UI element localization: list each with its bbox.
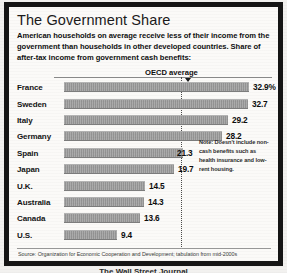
bar-value-label: 32.9% [253, 82, 276, 92]
clipping-page: The Government Share American households… [0, 0, 287, 273]
bar-value-label: 13.6 [144, 213, 160, 223]
bar-canada [64, 213, 140, 223]
bar-france [64, 82, 249, 92]
bar-row: U.K. 14.5 [17, 177, 279, 193]
bar-category-label: U.S. [17, 230, 32, 239]
bar-row: Italy 29.2 [17, 112, 279, 128]
bar-row: U.S. 9.4 [17, 227, 279, 243]
plot-top-rule [54, 77, 272, 78]
bar-category-label: France [17, 83, 43, 92]
figure-caption: The Wall Street Journal [0, 267, 287, 273]
bar-value-label: 19.7 [178, 164, 194, 174]
bar-value-label: 29.2 [232, 115, 248, 125]
bar-uk [64, 181, 145, 191]
bar-sweden [64, 99, 248, 109]
bar-value-label: 14.5 [149, 181, 165, 191]
chart-subtitle: American households on average receive l… [17, 31, 275, 63]
bar-category-label: Italy [17, 115, 33, 124]
bar-row: France 32.9% [17, 79, 279, 95]
oecd-average-label: OECD average [145, 68, 198, 77]
chart-source: Source: Organization for Economic Cooper… [18, 251, 272, 257]
bar-category-label: Spain [17, 148, 38, 157]
chart-note: Note: Doesn't include non-cash benefits … [199, 138, 273, 174]
bar-value-label: 9.4 [121, 230, 132, 240]
bar-us [64, 230, 117, 240]
bar-value-label: 21.3 [177, 148, 193, 158]
bar-row: Australia 14.3 [17, 194, 279, 210]
bar-japan [64, 164, 174, 174]
bar-category-label: Sweden [17, 99, 47, 108]
bar-value-label: 14.3 [148, 197, 164, 207]
bar-spain [64, 148, 183, 158]
source-rule [17, 248, 271, 249]
chart-card: The Government Share American households… [9, 7, 278, 261]
bar-row: Sweden 32.7 [17, 95, 279, 111]
bar-category-label: Japan [17, 165, 40, 174]
bar-value-label: 32.7 [252, 99, 268, 109]
chart-title: The Government Share [17, 13, 271, 28]
bar-row: Canada 13.6 [17, 210, 279, 226]
bar-category-label: U.K. [17, 181, 33, 190]
bar-category-label: Germany [17, 132, 51, 141]
chart-frame: The Government Share American households… [4, 2, 283, 266]
bar-category-label: Canada [17, 214, 45, 223]
bar-australia [64, 197, 144, 207]
bar-italy [64, 115, 228, 125]
bar-category-label: Australia [17, 197, 50, 206]
